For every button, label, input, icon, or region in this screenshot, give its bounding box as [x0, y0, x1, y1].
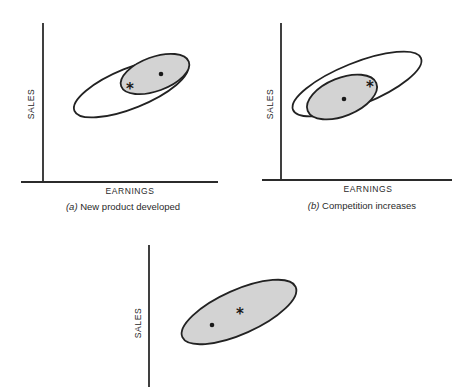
- panel-b-caption-letter: (b): [308, 200, 320, 211]
- panel-b-asterisk-marker: *: [366, 78, 374, 96]
- panel-b-x-label: EARNINGS: [343, 184, 392, 194]
- panel-c-dot-marker: [210, 323, 215, 328]
- panel-c-y-label: SALES: [133, 308, 143, 338]
- panel-b-caption-text: Competition increases: [319, 200, 416, 211]
- diagram-canvas: SALES EARNINGS * (a) New product develop…: [0, 0, 475, 387]
- panel-c: SALES *: [133, 245, 305, 387]
- panel-a-dot-marker: [159, 72, 164, 77]
- panel-b-dot-marker: [342, 97, 347, 102]
- panel-a: SALES EARNINGS * (a) New product develop…: [21, 23, 218, 212]
- panel-b-y-label: SALES: [265, 89, 275, 119]
- panel-a-caption: (a) New product developed: [66, 201, 180, 212]
- panel-b: SALES EARNINGS * (b) Competition increas…: [262, 23, 452, 211]
- panel-a-x-label: EARNINGS: [105, 186, 154, 196]
- panel-a-y-label: SALES: [26, 89, 36, 119]
- panel-a-caption-letter: (a): [66, 201, 78, 212]
- panel-a-caption-text: New product developed: [78, 201, 180, 212]
- panel-b-caption: (b) Competition increases: [308, 200, 417, 211]
- panel-a-asterisk-marker: *: [126, 80, 134, 98]
- panel-c-asterisk-marker: *: [236, 305, 244, 323]
